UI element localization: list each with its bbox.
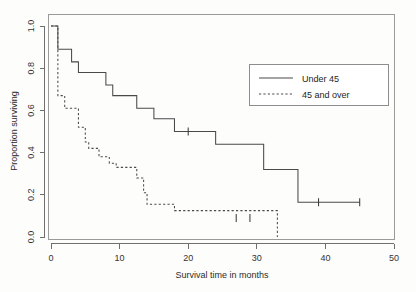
y-tick-label-0: 0.0 (26, 231, 36, 244)
y-axis-ticks (40, 26, 45, 237)
legend: Under 45 45 and over (250, 65, 389, 106)
x-tick-label-2: 20 (183, 253, 193, 263)
y-tick-label-5: 1.0 (26, 20, 36, 33)
plot-frame (49, 15, 395, 240)
y-axis-title: Proportion surviving (9, 91, 19, 171)
legend-label-45-and-over: 45 and over (302, 90, 350, 100)
y-tick-label-1: 0.2 (26, 189, 36, 202)
kaplan-meier-plot: 0.0 0.2 0.4 0.6 0.8 1.0 Proportion survi… (0, 0, 416, 292)
survival-curves-group (51, 26, 360, 237)
x-axis-ticks (51, 244, 394, 249)
x-tick-label-3: 30 (252, 253, 262, 263)
x-tick-label-5: 50 (389, 253, 399, 263)
x-tick-label-1: 10 (115, 253, 125, 263)
x-tick-label-0: 0 (48, 253, 53, 263)
x-axis-title: Survival time in months (175, 270, 269, 280)
x-tick-label-4: 40 (320, 253, 330, 263)
y-tick-label-2: 0.4 (26, 146, 36, 159)
survival-curve-45-and-over (51, 26, 277, 237)
y-tick-label-3: 0.6 (26, 104, 36, 117)
censor-marks-group (188, 128, 360, 223)
legend-label-under-45: Under 45 (302, 74, 339, 84)
survival-curve-under-45 (51, 26, 360, 202)
y-tick-label-4: 0.8 (26, 62, 36, 75)
survival-curve-figure: 0.0 0.2 0.4 0.6 0.8 1.0 Proportion survi… (0, 0, 416, 292)
